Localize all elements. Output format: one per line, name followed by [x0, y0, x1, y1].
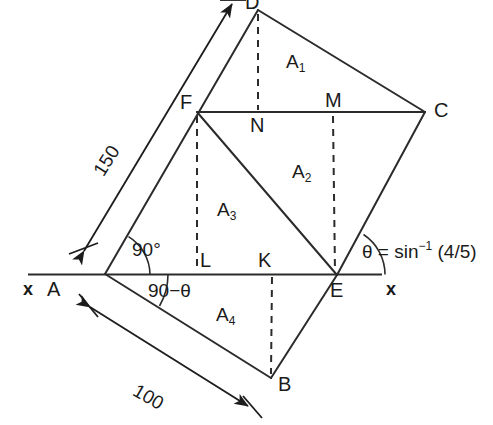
area-label-a4: A4 — [216, 305, 235, 324]
area-label-a3-text: A — [217, 199, 230, 220]
dimension-tick-100-end — [243, 396, 262, 418]
area-label-a2: A2 — [292, 162, 311, 181]
vertex-label-a: A — [47, 279, 60, 299]
theta-prefix: θ = sin — [362, 241, 419, 262]
area-label-a1-sub: 1 — [299, 61, 306, 75]
dashed-m-e — [333, 116, 335, 272]
vertex-label-k: K — [258, 250, 271, 270]
vertex-label-b: B — [278, 374, 291, 394]
segment-e-b — [271, 275, 337, 378]
vertex-label-f: F — [180, 92, 192, 112]
area-label-a1: A1 — [286, 52, 305, 71]
area-label-a4-sub: 4 — [229, 314, 236, 328]
area-label-a3: A3 — [217, 200, 236, 219]
theta-exponent: −1 — [419, 239, 433, 253]
area-label-a2-text: A — [292, 161, 305, 182]
angle-label-theta: θ = sin−1 (4/5) — [362, 242, 477, 261]
vertex-label-m: M — [325, 90, 342, 110]
angle-label-right: 90° — [132, 240, 161, 259]
vertex-label-c: C — [434, 100, 448, 120]
axis-label-left: x — [23, 280, 33, 298]
vertex-label-d: D — [245, 0, 259, 12]
angle-label-complement: 90−θ — [148, 281, 191, 300]
vertex-label-n: N — [250, 115, 264, 135]
area-label-a1-text: A — [286, 51, 299, 72]
area-label-a3-sub: 3 — [230, 209, 237, 223]
segment-a-d — [105, 10, 258, 274]
dimension-tick-100-start — [79, 294, 98, 317]
dimension-tick-150-start — [69, 243, 98, 254]
theta-value: (4/5) — [437, 241, 476, 262]
axis-label-right: x — [386, 280, 396, 298]
area-label-a2-sub: 2 — [305, 171, 312, 185]
dashed-k-b — [271, 277, 272, 374]
vertex-label-l: L — [200, 250, 211, 270]
geometry-canvas — [0, 0, 493, 425]
geometry-figure: A B C D E F K L M N A1 A2 A3 A4 150 100 … — [0, 0, 493, 425]
vertex-label-e: E — [330, 280, 343, 300]
area-label-a4-text: A — [216, 304, 229, 325]
